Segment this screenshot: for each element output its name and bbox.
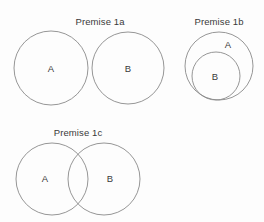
diagram-premise-1c: A B <box>0 0 264 222</box>
set-circle-b-1c <box>68 143 140 215</box>
set-circle-a-1c <box>16 143 88 215</box>
euler-diagram-figure: Premise 1a A B Premise 1b A B Premise 1c… <box>0 0 264 222</box>
set-label-b-1c: B <box>107 173 113 184</box>
set-label-a-1c: A <box>42 173 49 184</box>
